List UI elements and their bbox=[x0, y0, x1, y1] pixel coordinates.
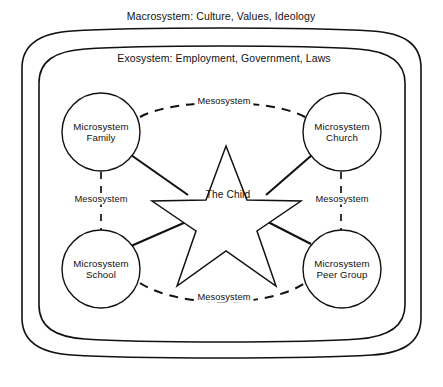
mesosystem-label-top: Mesosystem bbox=[194, 96, 253, 107]
exosystem-label: Exosystem: Employment, Government, Laws bbox=[117, 52, 330, 64]
microsystem-church-label: Microsystem Church bbox=[314, 121, 369, 144]
microsystem-peer-group-label: Microsystem Peer Group bbox=[314, 258, 369, 281]
mesosystem-label-right: Mesosystem bbox=[312, 194, 371, 205]
mesosystem-label-bottom: Mesosystem bbox=[194, 292, 253, 303]
ecological-systems-diagram: Macrosystem: Culture, Values, Ideology E… bbox=[0, 0, 443, 387]
mesosystem-label-left: Mesosystem bbox=[71, 194, 130, 205]
microsystem-family-label: Microsystem Family bbox=[73, 121, 128, 144]
macrosystem-label: Macrosystem: Culture, Values, Ideology bbox=[127, 10, 316, 22]
spoke-peer-group-to-child bbox=[268, 222, 311, 244]
microsystem-school-label: Microsystem School bbox=[73, 258, 128, 281]
spoke-church-to-child bbox=[266, 155, 312, 195]
spoke-school-to-child bbox=[131, 222, 186, 246]
child-star bbox=[152, 146, 301, 286]
child-label: The Child bbox=[206, 189, 251, 201]
spoke-family-to-child bbox=[131, 155, 188, 195]
